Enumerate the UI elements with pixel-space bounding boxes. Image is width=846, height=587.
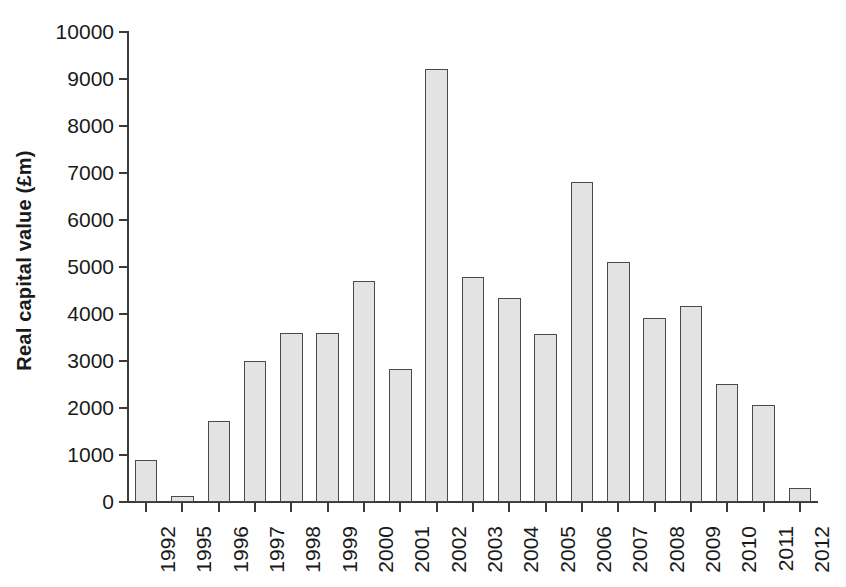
- y-axis-tick: [119, 501, 128, 503]
- y-axis-tick-label: 4000: [67, 302, 114, 326]
- bar-chart: Real capital value (£m) 1000090008000700…: [0, 0, 846, 587]
- bar: [280, 333, 303, 502]
- y-axis-tick: [119, 313, 128, 315]
- y-axis-tick: [119, 31, 128, 33]
- bar: [135, 460, 158, 502]
- bar: [752, 405, 775, 502]
- y-axis-tick: [119, 454, 128, 456]
- bar: [534, 334, 557, 502]
- y-axis-title-text: Real capital value (£m): [13, 150, 36, 370]
- bar: [789, 488, 812, 502]
- x-axis-tick: [472, 502, 474, 512]
- x-axis-tick: [617, 502, 619, 512]
- x-axis-tick: [145, 502, 147, 512]
- y-axis-tick-label: 8000: [67, 114, 114, 138]
- x-axis-tick-label: 2012: [810, 526, 834, 573]
- y-axis-tick-label: 5000: [67, 255, 114, 279]
- x-axis-tick-label: 1998: [301, 526, 325, 573]
- bar: [425, 69, 448, 502]
- y-axis-tick: [119, 360, 128, 362]
- bar: [607, 262, 630, 502]
- x-axis-tick-label: 1992: [156, 526, 180, 573]
- bar: [680, 306, 703, 502]
- x-axis-tick-label: 2000: [374, 526, 398, 573]
- y-axis-title: Real capital value (£m): [0, 0, 48, 520]
- bar: [716, 384, 739, 502]
- x-axis-tick: [508, 502, 510, 512]
- bar: [462, 277, 485, 502]
- x-axis-tick-label: 1999: [338, 526, 362, 573]
- y-axis-tick-label: 9000: [67, 67, 114, 91]
- x-axis-tick: [726, 502, 728, 512]
- y-axis-tick: [119, 219, 128, 221]
- x-axis-tick: [363, 502, 365, 512]
- x-axis-tick: [799, 502, 801, 512]
- y-axis-tick: [119, 266, 128, 268]
- x-axis-tick: [254, 502, 256, 512]
- y-axis-tick: [119, 125, 128, 127]
- y-axis-tick: [119, 407, 128, 409]
- y-axis-tick-label: 0: [102, 490, 114, 514]
- x-axis-tick: [181, 502, 183, 512]
- x-axis-tick: [436, 502, 438, 512]
- x-axis-tick-label: 1996: [229, 526, 253, 573]
- bar: [244, 361, 267, 502]
- x-axis-tick-label: 2008: [665, 526, 689, 573]
- x-axis-tick-label: 2001: [410, 526, 434, 573]
- x-axis-tick: [545, 502, 547, 512]
- x-axis-tick-label: 1995: [192, 526, 216, 573]
- bar: [389, 369, 412, 502]
- x-axis-tick-label: 2005: [556, 526, 580, 573]
- x-axis-tick-label: 2002: [447, 526, 471, 573]
- x-axis-tick-label: 2011: [774, 526, 798, 571]
- bar: [498, 298, 521, 502]
- x-axis-tick: [763, 502, 765, 512]
- y-axis-tick-label: 7000: [67, 161, 114, 185]
- y-axis-tick-label: 1000: [67, 443, 114, 467]
- plot-area: 1000090008000700060005000400030002000100…: [128, 32, 818, 502]
- x-axis-tick-label: 2006: [592, 526, 616, 573]
- y-axis-tick: [119, 172, 128, 174]
- x-axis-tick: [218, 502, 220, 512]
- x-axis-tick: [654, 502, 656, 512]
- bar: [316, 333, 339, 502]
- y-axis-tick-label: 6000: [67, 208, 114, 232]
- x-axis-tick: [327, 502, 329, 512]
- x-axis-tick: [290, 502, 292, 512]
- y-axis-tick-label: 3000: [67, 349, 114, 373]
- bar: [643, 318, 666, 502]
- bar: [571, 182, 594, 502]
- bar: [353, 281, 376, 502]
- x-axis-tick-label: 2004: [519, 526, 543, 573]
- x-axis-tick: [690, 502, 692, 512]
- y-axis-tick: [119, 78, 128, 80]
- y-axis-tick-label: 10000: [56, 20, 114, 44]
- x-axis-tick: [581, 502, 583, 512]
- x-axis-tick-label: 2010: [737, 526, 761, 573]
- bar: [208, 421, 231, 502]
- x-axis-tick-label: 2003: [483, 526, 507, 573]
- x-axis-tick-label: 2007: [628, 526, 652, 573]
- y-axis-tick-label: 2000: [67, 396, 114, 420]
- bar: [171, 496, 194, 502]
- x-axis-tick: [399, 502, 401, 512]
- x-axis-tick-label: 2009: [701, 526, 725, 573]
- x-axis-tick-label: 1997: [265, 526, 289, 573]
